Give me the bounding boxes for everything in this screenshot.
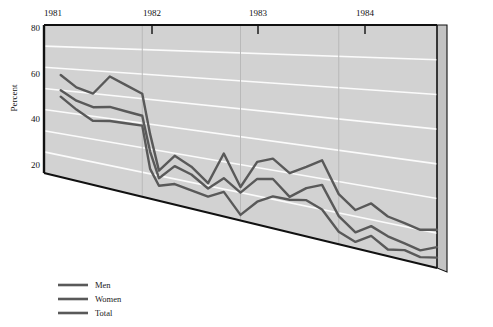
legend-label-women: Women — [95, 294, 122, 304]
x-tick-label-1982: 1982 — [143, 8, 161, 18]
x-tick-label-1984: 1984 — [356, 8, 375, 18]
legend-item-total[interactable]: Total — [58, 308, 113, 318]
x-tick-label-1981: 1981 — [44, 8, 62, 18]
x-axis-tick-labels: 1981 1982 1983 1984 — [44, 8, 375, 18]
perspective-line-chart: 80 60 40 20 Percent 1981 1982 1983 1984 … — [0, 0, 493, 327]
chart-figure: 80 60 40 20 Percent 1981 1982 1983 1984 … — [0, 0, 493, 327]
legend-label-men: Men — [95, 280, 111, 290]
chart-legend: Men Women Total — [58, 280, 122, 318]
legend-label-total: Total — [95, 308, 113, 318]
y-tick-label-20: 20 — [31, 160, 41, 170]
y-tick-label-60: 60 — [31, 69, 41, 79]
y-tick-label-80: 80 — [31, 23, 41, 33]
y-tick-label-40: 40 — [31, 114, 41, 124]
legend-item-women[interactable]: Women — [58, 294, 122, 304]
y-axis-title: Percent — [9, 84, 19, 111]
y-axis-tick-labels: 80 60 40 20 — [31, 23, 41, 170]
legend-item-men[interactable]: Men — [58, 280, 111, 290]
x-tick-label-1983: 1983 — [249, 8, 268, 18]
plot-3d-side-panel — [437, 25, 447, 272]
